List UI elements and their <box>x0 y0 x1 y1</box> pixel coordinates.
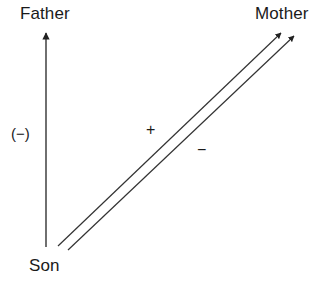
diagram-arrows-layer <box>0 0 320 283</box>
sign-label-minus: − <box>197 141 206 158</box>
arrow-son-to-mother-upper <box>58 33 281 246</box>
arrow-son-to-mother-lower <box>68 36 294 250</box>
node-label-son: Son <box>29 256 60 276</box>
node-label-father: Father <box>20 4 70 24</box>
diagram-canvas: Father Mother Son (−) + − <box>0 0 320 283</box>
node-label-mother: Mother <box>255 4 309 24</box>
sign-label-plus: + <box>146 121 155 138</box>
sign-label-minus-parenthesized: (−) <box>11 125 30 142</box>
